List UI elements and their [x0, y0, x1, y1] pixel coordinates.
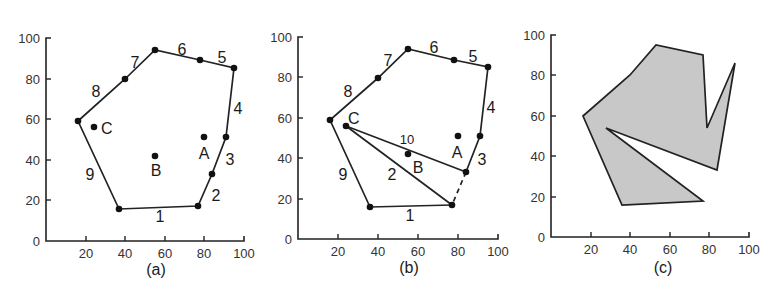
point-a	[455, 133, 462, 140]
removed-edge-dashed	[452, 172, 466, 205]
ytick-label: 60	[26, 112, 40, 127]
edge-label-5: 5	[218, 49, 227, 66]
ytick-label: 20	[26, 193, 40, 208]
figure: 100 80 60 40 20 0 20 40 60 80 100	[0, 0, 779, 292]
panel-b: 100 80 60 40 20 0 20 40 60 80 100	[270, 30, 509, 276]
edge-label-5: 5	[469, 48, 478, 65]
ytick-label: 0	[285, 232, 292, 247]
xtick-label: 60	[411, 244, 425, 259]
axes-b	[298, 37, 498, 239]
point-b	[405, 151, 412, 158]
polygon-b	[330, 49, 488, 207]
point-a	[201, 134, 208, 141]
edge-label-9: 9	[86, 166, 95, 183]
xtick-label: 100	[487, 244, 509, 259]
edge-label-4: 4	[487, 99, 496, 116]
point-b	[152, 153, 159, 160]
xtick-label: 40	[371, 244, 385, 259]
panel-a: 100 80 60 40 20 0 20 40 60 80 100	[18, 31, 255, 278]
panel-c: 100 80 60 40 20 0 20 40 60 80 100 (c)	[523, 28, 760, 276]
axes-a	[46, 38, 244, 241]
xtick-label: 60	[663, 242, 677, 257]
edge-label-3: 3	[226, 151, 235, 168]
caption-b: (b)	[399, 259, 419, 276]
xtick-label: 40	[623, 242, 637, 257]
ytick-label: 0	[538, 230, 545, 245]
ytick-label: 20	[531, 190, 545, 205]
edge-label-1: 1	[406, 207, 415, 224]
xtick-label: 80	[197, 246, 211, 261]
label-point-c: C	[348, 110, 360, 127]
label-point-a: A	[452, 144, 463, 161]
label-point-a: A	[199, 145, 210, 162]
x-ticks-c: 20 40 60 80 100	[584, 232, 760, 257]
edge-label-7: 7	[384, 52, 393, 69]
ytick-label: 80	[531, 68, 545, 83]
x-ticks-a: 20 40 60 80 100	[79, 236, 255, 261]
label-point-c: C	[101, 120, 113, 137]
xtick-label: 100	[738, 242, 760, 257]
xtick-label: 40	[118, 246, 132, 261]
xtick-label: 20	[331, 244, 345, 259]
edge-label-4: 4	[234, 100, 243, 117]
caption-a: (a)	[146, 261, 166, 278]
xtick-label: 100	[233, 246, 255, 261]
ytick-label: 80	[278, 70, 292, 85]
edge-label-6: 6	[178, 41, 187, 58]
xtick-label: 80	[702, 242, 716, 257]
shaded-polygon-c	[583, 45, 735, 205]
edge-label-6: 6	[430, 39, 439, 56]
xtick-label: 80	[451, 244, 465, 259]
label-point-b: B	[151, 162, 162, 179]
ytick-label: 100	[270, 30, 292, 45]
edge-label-10: 10	[400, 132, 414, 147]
edge-label-9: 9	[339, 166, 348, 183]
edge-label-1: 1	[156, 208, 165, 225]
x-ticks-b: 20 40 60 80 100	[331, 234, 509, 259]
edge-label-2: 2	[212, 187, 221, 204]
point-c	[91, 124, 98, 131]
edge-label-3: 3	[478, 151, 487, 168]
ytick-label: 40	[278, 151, 292, 166]
xtick-label: 60	[158, 246, 172, 261]
edge-label-8: 8	[92, 83, 101, 100]
xtick-label: 20	[584, 242, 598, 257]
ytick-label: 0	[33, 234, 40, 249]
ytick-label: 40	[26, 153, 40, 168]
ytick-label: 80	[26, 72, 40, 87]
edge-label-7: 7	[131, 54, 140, 71]
xtick-label: 20	[79, 246, 93, 261]
ytick-label: 40	[531, 149, 545, 164]
ytick-label: 100	[18, 31, 40, 46]
edge-label-8: 8	[344, 83, 353, 100]
caption-c: (c)	[654, 259, 673, 276]
ytick-label: 60	[278, 111, 292, 126]
label-point-b: B	[413, 159, 424, 176]
ytick-label: 60	[531, 109, 545, 124]
ytick-label: 100	[523, 28, 545, 43]
edge-label-2: 2	[388, 166, 397, 183]
ytick-label: 20	[278, 192, 292, 207]
